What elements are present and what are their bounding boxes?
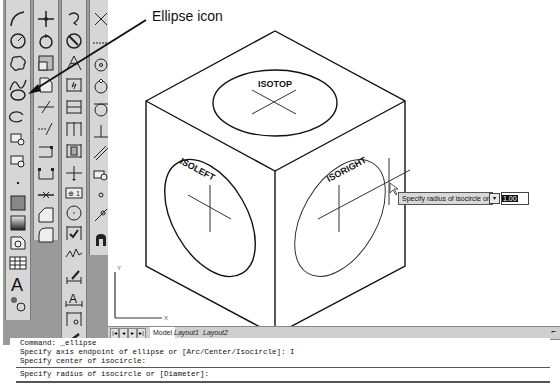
ellipse-arc-icon[interactable] <box>7 106 29 128</box>
arc-icon[interactable] <box>7 8 29 30</box>
dim-radius-icon[interactable] <box>63 30 85 52</box>
dim-angular-icon[interactable] <box>63 52 85 74</box>
ucs-y-label: Y <box>117 265 121 271</box>
svg-text:⊕ 1: ⊕ 1 <box>68 190 80 197</box>
dynamic-input-field[interactable]: 1.00 <box>501 192 529 205</box>
tolerance-icon[interactable]: ⊕ 1 <box>63 182 85 204</box>
command-bottom-border <box>16 381 550 383</box>
ellipse-icon-annotation: Ellipse icon <box>152 8 223 24</box>
stretch-icon[interactable] <box>35 74 57 96</box>
svg-text:A: A <box>11 275 23 293</box>
command-history-line: Specify center of isocircle: <box>20 357 146 365</box>
point-icon[interactable] <box>7 172 29 194</box>
jogged-linear-icon[interactable] <box>63 242 85 264</box>
break-at-point-icon[interactable] <box>35 140 57 162</box>
move-icon[interactable] <box>35 8 57 30</box>
command-prompt-input[interactable]: Specify radius of isocircle or [Diameter… <box>20 370 209 378</box>
command-divider <box>16 367 550 368</box>
tab-model[interactable]: Model <box>150 327 175 338</box>
command-history-line: Specify axis endpoint of ellipse or [Arc… <box>20 348 295 356</box>
tab-layout2[interactable]: Layout2 <box>203 327 228 338</box>
dim-space-icon[interactable] <box>63 140 85 162</box>
modify-toolbar <box>33 0 59 240</box>
dynamic-input-prompt: Specify radius of isocircle or <box>398 192 493 205</box>
dim-arc-icon[interactable] <box>63 8 85 30</box>
revision-cloud-icon[interactable] <box>7 52 29 74</box>
trim-icon[interactable] <box>35 96 57 118</box>
chamfer-icon[interactable] <box>35 204 57 226</box>
isotop-label: ISOTOP <box>258 79 292 89</box>
isometric-cube-drawing: ISOTOP ISOLEFT ISORIGHT Y X <box>108 0 560 328</box>
make-block-icon[interactable] <box>7 150 29 172</box>
dynamic-input-options-button[interactable]: ▾ <box>489 193 500 204</box>
ucs-x-label: X <box>164 315 168 321</box>
ellipse-icon[interactable] <box>7 84 29 106</box>
break-icon[interactable] <box>35 162 57 184</box>
cursor-icon <box>390 183 398 195</box>
table-icon[interactable] <box>7 252 29 274</box>
ucs-icon <box>115 272 162 318</box>
dimension-toolbar: ⊕ 1 A <box>61 0 87 345</box>
dim-edit-icon[interactable] <box>63 266 85 288</box>
extend-icon[interactable] <box>35 118 57 140</box>
add-selected-icon[interactable] <box>7 292 29 314</box>
dim-baseline-icon[interactable] <box>63 96 85 118</box>
tab-layout1[interactable]: Layout1 <box>174 327 199 338</box>
drawing-canvas[interactable]: ISOTOP ISOLEFT ISORIGHT Y X <box>108 0 560 328</box>
join-icon[interactable] <box>35 184 57 206</box>
dim-break-icon[interactable] <box>63 162 85 184</box>
rotate-icon[interactable] <box>35 30 57 52</box>
circle-icon[interactable] <box>7 30 29 52</box>
command-history-line: Command: _ellipse <box>20 339 97 347</box>
isoright-label: ISORIGHT <box>325 154 369 183</box>
fillet-icon[interactable] <box>35 224 57 246</box>
insert-block-icon[interactable] <box>7 128 29 150</box>
svg-text:A: A <box>69 292 77 306</box>
dim-linear-icon[interactable] <box>63 74 85 96</box>
resize-corner-icon[interactable]: ⌐ <box>551 327 556 336</box>
multiline-text-icon[interactable]: A <box>7 272 29 294</box>
gradient-icon[interactable] <box>7 212 29 234</box>
region-icon[interactable] <box>7 232 29 254</box>
dim-continue-icon[interactable] <box>63 118 85 140</box>
command-window: Command: _ellipse Specify axis endpoint … <box>10 338 550 386</box>
hatch-icon[interactable] <box>7 192 29 214</box>
inspect-icon[interactable] <box>63 222 85 244</box>
toolbar-panel: A ⊕ 1 A <box>3 0 108 345</box>
scale-icon[interactable] <box>35 52 57 74</box>
dim-text-edit-icon[interactable]: A <box>63 288 85 310</box>
dynamic-input-value: 1.00 <box>502 195 518 202</box>
draw-toolbar: A <box>5 0 31 320</box>
center-mark-icon[interactable] <box>63 202 85 224</box>
